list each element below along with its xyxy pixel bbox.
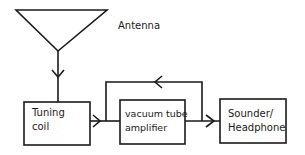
antenna-symbol: [16, 10, 107, 51]
tuning-coil-label: Tuning coil: [32, 106, 65, 134]
amplifier-label: vacuum tube amplifier: [125, 107, 188, 135]
antenna-label: Antenna: [118, 19, 160, 32]
sounder-label: Sounder/ Headphone: [228, 107, 285, 135]
